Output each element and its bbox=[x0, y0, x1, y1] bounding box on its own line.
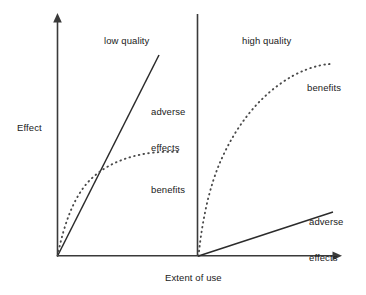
label-adverse-effects-right-line2: effects bbox=[309, 252, 344, 264]
label-adverse-effects-left: adverse effects bbox=[151, 82, 186, 178]
label-low-quality: low quality bbox=[104, 35, 149, 47]
y-axis-label: Effect bbox=[17, 122, 42, 134]
left-adverse-effects-line bbox=[58, 55, 160, 256]
label-adverse-effects-right: adverse effects bbox=[309, 192, 344, 288]
label-adverse-effects-left-line1: adverse bbox=[151, 106, 186, 118]
y-axis-arrow-icon bbox=[53, 13, 62, 23]
label-adverse-effects-left-line2: effects bbox=[151, 142, 186, 154]
x-axis-label: Extent of use bbox=[165, 272, 222, 284]
label-benefits-left: benefits bbox=[151, 184, 185, 196]
label-benefits-right: benefits bbox=[307, 82, 341, 94]
label-high-quality: high quality bbox=[242, 35, 291, 47]
diagram-canvas: low quality high quality adverse effects… bbox=[0, 0, 366, 295]
label-adverse-effects-right-line1: adverse bbox=[309, 216, 344, 228]
